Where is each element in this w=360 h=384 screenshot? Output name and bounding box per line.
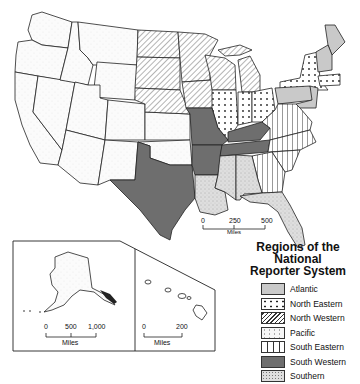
legend-item-north-western: North Western (261, 311, 360, 326)
main-scale-tick-1: 250 (229, 217, 241, 224)
legend-item-north-eastern: North Eastern (261, 297, 360, 312)
swatch-north-eastern (261, 298, 285, 310)
swatch-atlantic (261, 283, 285, 295)
legend-item-pacific: Pacific (261, 326, 360, 341)
hawaii-scale-tick-0: 0 (142, 323, 146, 330)
legend-item-south-western: South Western (261, 355, 360, 370)
legend-label: South Eastern (290, 342, 344, 352)
legend-label: North Eastern (290, 299, 342, 309)
alaska-scale-unit: Miles (62, 339, 78, 346)
legend-item-southern: Southern (261, 369, 360, 384)
legend-title: Regions of the National Reporter System (236, 241, 360, 277)
hawaii-islands (145, 280, 207, 320)
alaska-scale-tick-0: 0 (44, 323, 48, 330)
main-scale-unit: Miles (227, 229, 241, 235)
main-scale-tick-0: 0 (201, 217, 205, 224)
legend-title-line1: Regions of the National (236, 241, 360, 265)
hawaii-scale-tick-1: 200 (176, 323, 188, 330)
alaska-scale-labels: 0 500 1,000 Miles (40, 323, 130, 351)
main-scale-labels: 0 250 500 Miles (199, 217, 279, 237)
legend-label: Pacific (290, 328, 315, 338)
legend-title-line2: Reporter System (236, 265, 360, 277)
swatch-south-western (261, 356, 285, 368)
alaska-scale-tick-1: 500 (65, 323, 77, 330)
legend: Regions of the National Reporter System … (240, 241, 360, 384)
swatch-south-eastern (261, 341, 285, 353)
legend-label: North Western (290, 313, 345, 323)
alaska-shape (44, 252, 115, 312)
legend-label: Southern (290, 371, 325, 381)
alaska-scale-tick-2: 1,000 (88, 323, 106, 330)
hawaii-scale-unit: Miles (154, 339, 170, 346)
swatch-southern (261, 370, 285, 382)
swatch-pacific (261, 327, 285, 339)
main-scale-tick-2: 500 (261, 217, 273, 224)
legend-label: Atlantic (290, 284, 318, 294)
swatch-north-western (261, 312, 285, 324)
legend-items: Atlantic North Eastern North Western Pac… (261, 282, 360, 384)
legend-item-atlantic: Atlantic (261, 282, 360, 297)
hawaii-scale-labels: 0 200 Miles (140, 323, 200, 351)
legend-label: South Western (290, 357, 346, 367)
legend-item-south-eastern: South Eastern (261, 340, 360, 355)
